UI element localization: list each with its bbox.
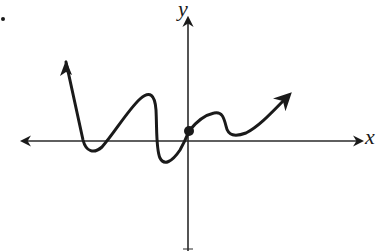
y-intercept-point — [184, 126, 194, 136]
curve-left-arrow-icon — [60, 60, 72, 76]
y-axis-label: y — [178, 0, 188, 20]
graph-svg — [0, 0, 380, 251]
x-axis-label: x — [365, 126, 375, 148]
problem-marker-dot — [1, 17, 5, 21]
function-curve — [66, 62, 288, 162]
graph-figure: y x — [0, 0, 380, 251]
